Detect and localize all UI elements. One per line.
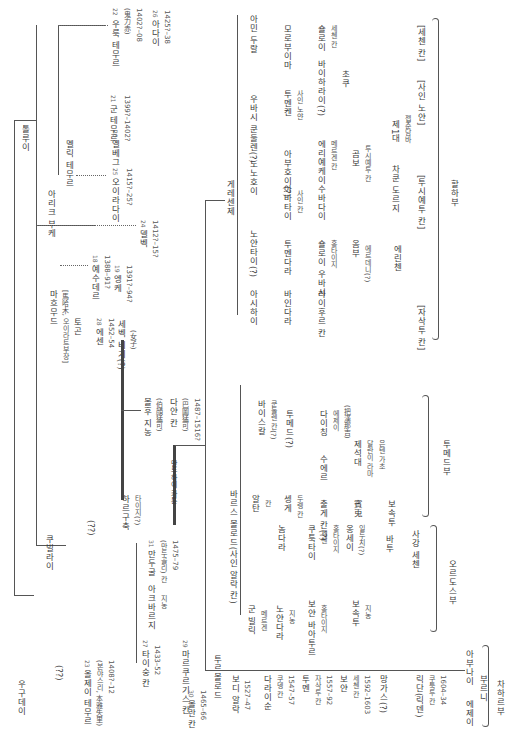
jebtsundamba: 제1대: [390, 120, 400, 143]
q-mark-2: (??): [86, 520, 96, 536]
ugedei-label: 우구데이: [16, 680, 26, 716]
amin-durag: 아민 두랄: [248, 15, 258, 54]
node-18: 18예수데르: [90, 255, 100, 301]
sechen-q: [세첸 칸]: [416, 25, 426, 61]
suldai: 수바다이: [316, 185, 326, 221]
tumed-brace: [422, 395, 429, 517]
node-24: 24델벡: [138, 220, 148, 248]
ligdan: 릭단(릭덴): [414, 675, 424, 718]
boshugtu: 보속투: [350, 600, 360, 627]
chokhur: 출게 칸(?): [318, 500, 328, 541]
node-23: 23올제이 테무르: [82, 660, 92, 726]
ordos-group: 오르도스부: [446, 560, 458, 605]
bakhu: 바투: [384, 535, 394, 553]
gun-bilig: 군 빌릭: [246, 605, 256, 635]
sengge: 셍게: [282, 495, 292, 513]
tumengken: 투멘켄: [282, 90, 292, 117]
node-25: 25오이라다이: [110, 168, 120, 223]
jasagtu-q: [자삭투 칸]: [416, 305, 426, 350]
abunai: 아부나이: [464, 650, 474, 686]
nomdara: 놈다라: [276, 525, 286, 552]
torobolod-label: 투르볼로드: [212, 655, 222, 700]
ongjei: 옹세이: [344, 525, 354, 552]
harguchuk-label: 하르구축: [120, 495, 130, 531]
tolui-trunk: [14, 120, 15, 595]
arik-boke-label: 아리크 부케: [46, 190, 56, 238]
node-27: 27타이숭 칸: [140, 640, 150, 688]
node-28: 28에센: [94, 318, 104, 346]
boshugtu2: 보속투: [386, 500, 396, 527]
tumed-group: 투메드부: [440, 440, 452, 476]
altan: 알탄: [250, 495, 260, 513]
dayan-sons-trunk: [205, 200, 206, 670]
node-30: 30몰란 칸: [186, 690, 196, 729]
bayaskhan: 바이스칼: [256, 400, 266, 436]
mangus: 망가스(?): [378, 675, 388, 713]
tushiyetu-q: [투시예투 칸]: [416, 175, 426, 229]
chokhu: 초쿠: [340, 70, 350, 88]
manduhai-label: 만두하이 카툰: [168, 460, 178, 504]
node-20: 20엘베그: [110, 130, 120, 167]
node-26: 26아다이: [150, 10, 160, 47]
melik-temur-label: 멜릭 테무르: [64, 140, 74, 188]
chahar-brace: [482, 645, 489, 727]
chakhundorji: 차쿤 도르지: [390, 165, 400, 213]
mahmud-label: 마흐무드: [48, 290, 58, 326]
barsbolod-label: 바르스 볼로드(사인 알락 칸): [228, 490, 238, 604]
khutugtai: 쿠툭타이: [306, 525, 316, 561]
erinchen: 에린첸: [392, 245, 402, 272]
sholoi: 숄로이 우바시: [316, 240, 326, 297]
tolui-label: 톨루이: [20, 125, 30, 152]
ordos-brace: [430, 525, 437, 632]
noyandara: 노얀다라: [274, 605, 284, 641]
ashikhai: 아시하이: [248, 290, 258, 326]
bolhu-label: 볼후 지농: [142, 398, 152, 437]
gere-senje: 게레센제: [225, 180, 235, 216]
bushu: 賓兎: [352, 500, 362, 518]
node-22: 22 우룩 테무르: [110, 8, 120, 68]
khalkha-group: 할하부: [448, 180, 460, 207]
jesed: 제석대: [352, 440, 362, 467]
chahar-group: 차하르부: [494, 680, 506, 716]
bayindara: 바인다라: [282, 290, 292, 326]
morobuima: 모로부이마: [282, 25, 292, 70]
khalkha-brace: [432, 18, 439, 340]
buyan-bagatur: 보얀 바아투르: [306, 600, 316, 657]
dayan-label: 다얀 칸: [168, 398, 178, 428]
q-mark-1: (??): [54, 665, 64, 681]
dayichin: 다이칭: [318, 410, 328, 437]
eje: 에제이: [464, 700, 474, 727]
laikhor: 라이후르 칸: [316, 290, 326, 338]
agbarjin-label: 아크바르지: [146, 585, 156, 630]
tumendara: 투멘다라: [282, 240, 292, 276]
sain-noyan-q: [사인 노얀]: [416, 80, 426, 125]
node-19: 19엥케: [112, 265, 122, 293]
tumed-q: 투메드(?): [284, 410, 294, 448]
node-31: 31만두굴: [146, 540, 156, 577]
ubashi-khong: 우바시 쿤둘렌(?): [248, 95, 258, 163]
tumen: 투멘: [300, 675, 310, 693]
eriyekhei: 에리예케이: [316, 140, 326, 185]
daraisun: 다라이순: [262, 675, 272, 711]
ombo: 옴부: [350, 240, 360, 258]
arik-boke-line: [36, 25, 37, 225]
abukhui: 아부호이(?): [282, 150, 292, 197]
sutei: 수에르: [318, 455, 328, 482]
baikharai: 바이하라이(?): [316, 60, 326, 116]
buyan: 보얀: [338, 675, 348, 693]
gombo: 곰보: [350, 150, 360, 168]
khubilai-label: 쿠빌라이: [44, 535, 54, 571]
nonokhoi: 노노호이: [248, 160, 258, 196]
noyantai: 노얀타이(?): [248, 230, 258, 277]
sholoi-sechen: 숄로이: [316, 25, 326, 52]
bodi-alag: 보디 알락: [230, 675, 240, 714]
toghon-label: 토곤: [72, 318, 82, 336]
genealogy-diagram: 톨루이 아리크 부케 멜릭 테무르 22 우룩 테무르 (鬼力赤) 1402?–…: [0, 0, 506, 740]
sagang: 사강 세첸: [410, 530, 420, 569]
